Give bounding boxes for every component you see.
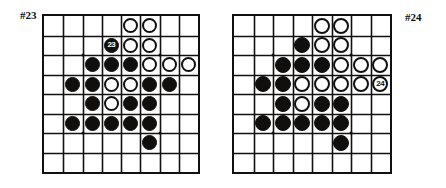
stone-white[interactable]: [353, 57, 369, 73]
stone-black[interactable]: [275, 115, 291, 131]
board-cell[interactable]: [293, 55, 313, 75]
stone-black[interactable]: [142, 96, 157, 111]
stone-white[interactable]: [314, 76, 330, 92]
board-cell[interactable]: 24: [371, 75, 391, 95]
board-cell[interactable]: [121, 16, 140, 36]
board-cell[interactable]: [351, 75, 371, 95]
stone-white[interactable]: [142, 18, 157, 33]
numbered-stone-white-24[interactable]: 24: [372, 76, 388, 92]
go-board-24[interactable]: 24: [232, 14, 392, 174]
stone-white[interactable]: [104, 77, 119, 92]
stone-black[interactable]: [294, 37, 310, 53]
board-cell[interactable]: [63, 114, 82, 134]
stone-white[interactable]: [333, 18, 349, 34]
board-cell[interactable]: [312, 55, 332, 75]
board-cell[interactable]: [121, 114, 140, 134]
stone-black[interactable]: [314, 57, 330, 73]
stone-white[interactable]: [123, 77, 138, 92]
stone-black[interactable]: [333, 96, 349, 112]
board-cell[interactable]: [121, 75, 140, 95]
stone-white[interactable]: [294, 96, 310, 112]
board-cell[interactable]: [83, 55, 102, 75]
board-cell[interactable]: [312, 75, 332, 95]
stone-black[interactable]: [85, 57, 100, 72]
board-cell[interactable]: [140, 75, 159, 95]
stone-white[interactable]: [181, 57, 196, 72]
stone-black[interactable]: [104, 116, 119, 131]
board-cell[interactable]: [332, 16, 352, 36]
stone-black[interactable]: [333, 135, 349, 151]
board-cell[interactable]: [332, 55, 352, 75]
board-cell[interactable]: [121, 36, 140, 56]
board-cell[interactable]: [83, 75, 102, 95]
stone-white[interactable]: [294, 76, 310, 92]
board-cell[interactable]: [83, 114, 102, 134]
board-cell[interactable]: [293, 94, 313, 114]
board-cell[interactable]: [140, 94, 159, 114]
stone-black[interactable]: [333, 115, 349, 131]
board-cell[interactable]: [273, 114, 293, 134]
board-cell[interactable]: [371, 55, 391, 75]
stone-white[interactable]: [333, 57, 349, 73]
stone-black[interactable]: [255, 76, 271, 92]
stone-black[interactable]: [85, 96, 100, 111]
go-board-23[interactable]: 23: [42, 14, 200, 174]
board-cell[interactable]: [140, 55, 159, 75]
stone-white[interactable]: [162, 57, 177, 72]
stone-black[interactable]: [65, 116, 80, 131]
board-cell[interactable]: [140, 16, 159, 36]
stone-black[interactable]: [142, 135, 157, 150]
board-cell[interactable]: [102, 94, 121, 114]
stone-black[interactable]: [85, 116, 100, 131]
board-cell[interactable]: [160, 75, 179, 95]
stone-white[interactable]: [123, 38, 138, 53]
board-cell[interactable]: [351, 55, 371, 75]
board-cell[interactable]: [254, 75, 274, 95]
board-cell[interactable]: [83, 94, 102, 114]
board-cell[interactable]: [332, 133, 352, 153]
stone-black[interactable]: [275, 57, 291, 73]
stone-black[interactable]: [123, 57, 138, 72]
board-cell[interactable]: [312, 114, 332, 134]
board-cell[interactable]: [312, 94, 332, 114]
board-cell[interactable]: [332, 75, 352, 95]
stone-white[interactable]: [333, 37, 349, 53]
board-cell[interactable]: [102, 114, 121, 134]
stone-black[interactable]: [142, 77, 157, 92]
board-cell[interactable]: [63, 75, 82, 95]
board-cell[interactable]: [121, 94, 140, 114]
board-cell[interactable]: [293, 36, 313, 56]
stone-black[interactable]: [104, 57, 119, 72]
board-cell[interactable]: [312, 36, 332, 56]
stone-black[interactable]: [123, 116, 138, 131]
stone-black[interactable]: [314, 96, 330, 112]
stone-black[interactable]: [275, 76, 291, 92]
stone-black[interactable]: [123, 96, 138, 111]
board-cell[interactable]: [102, 75, 121, 95]
stone-white[interactable]: [353, 76, 369, 92]
board-cell[interactable]: [179, 55, 198, 75]
board-cell[interactable]: [121, 55, 140, 75]
stone-white[interactable]: [372, 57, 388, 73]
board-cell[interactable]: [140, 133, 159, 153]
board-cell[interactable]: [332, 94, 352, 114]
board-cell[interactable]: [332, 36, 352, 56]
stone-black[interactable]: [255, 115, 271, 131]
board-cell[interactable]: [332, 114, 352, 134]
stone-black[interactable]: [65, 77, 80, 92]
stone-white[interactable]: [142, 57, 157, 72]
stone-black[interactable]: [142, 116, 157, 131]
board-cell[interactable]: [273, 94, 293, 114]
numbered-stone-black-23[interactable]: 23: [104, 38, 119, 53]
board-cell[interactable]: [102, 55, 121, 75]
board-cell[interactable]: [273, 55, 293, 75]
stone-black[interactable]: [314, 115, 330, 131]
board-cell[interactable]: [293, 114, 313, 134]
board-cell[interactable]: 23: [102, 36, 121, 56]
stone-white[interactable]: [142, 38, 157, 53]
board-cell[interactable]: [293, 75, 313, 95]
stone-white[interactable]: [104, 96, 119, 111]
stone-black[interactable]: [275, 96, 291, 112]
stone-black[interactable]: [162, 77, 177, 92]
board-cell[interactable]: [254, 114, 274, 134]
